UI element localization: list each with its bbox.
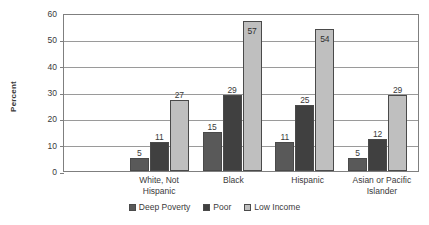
chart-legend: Deep PovertyPoorLow Income xyxy=(0,202,429,212)
bar-group: 152957 xyxy=(196,15,269,171)
bar-slot: 25 xyxy=(295,15,314,171)
legend-item[interactable]: Low Income xyxy=(244,202,300,212)
bar-value-label: 11 xyxy=(155,132,164,142)
bar-slot: 29 xyxy=(388,15,407,171)
bar-value-label: 27 xyxy=(175,90,184,100)
y-axis-tick xyxy=(60,146,64,147)
bar[interactable]: 11 xyxy=(275,142,294,171)
bar[interactable]: 15 xyxy=(203,132,222,172)
legend-label: Deep Poverty xyxy=(139,202,191,212)
y-axis-tick xyxy=(60,67,64,68)
y-axis-tick-label: 10 xyxy=(11,141,57,151)
bar-group: 51229 xyxy=(341,15,414,171)
y-axis-tick-label: 40 xyxy=(11,62,57,72)
bar-slot: 29 xyxy=(223,15,242,171)
bar-slot: 12 xyxy=(368,15,387,171)
bar-slot: 5 xyxy=(130,15,149,171)
bar[interactable]: 5 xyxy=(348,158,367,171)
bar-value-label: 12 xyxy=(373,129,382,139)
y-axis-tick xyxy=(60,120,64,121)
y-axis-tick-label: 0 xyxy=(11,167,57,177)
category-label-line: Hispanic xyxy=(122,186,196,197)
bar-slot: 5 xyxy=(348,15,367,171)
bar-value-label: 29 xyxy=(227,85,236,95)
bar-value-label: 25 xyxy=(300,95,309,105)
x-axis-category-label: Black xyxy=(196,175,270,196)
category-label-line: Asian or Pacific xyxy=(345,175,419,186)
y-axis-tick xyxy=(60,173,64,174)
legend-label: Poor xyxy=(213,202,231,212)
bar[interactable]: 54 xyxy=(315,29,334,171)
bar-value-label: 15 xyxy=(207,122,216,132)
bar-chart: Percent 5112715295711255451229 010203040… xyxy=(0,0,429,225)
bar[interactable]: 27 xyxy=(170,100,189,171)
bar-group: 112554 xyxy=(269,15,342,171)
y-axis-tick xyxy=(60,41,64,42)
bar-slot: 27 xyxy=(170,15,189,171)
bar-value-label: 5 xyxy=(137,148,142,158)
bar-slot: 54 xyxy=(315,15,334,171)
x-axis-category-label: White, NotHispanic xyxy=(122,175,196,196)
y-axis-tick-label: 30 xyxy=(11,88,57,98)
x-axis-category-label: Hispanic xyxy=(271,175,345,196)
category-label-line: Hispanic xyxy=(271,175,345,186)
legend-swatch-icon xyxy=(129,204,136,211)
bar-value-label: 54 xyxy=(320,34,329,44)
bar[interactable]: 25 xyxy=(295,105,314,171)
legend-swatch-icon xyxy=(244,204,251,211)
bar[interactable]: 29 xyxy=(388,95,407,171)
y-axis-tick-label: 60 xyxy=(11,9,57,19)
y-axis-tick-label: 20 xyxy=(11,114,57,124)
legend-item[interactable]: Poor xyxy=(203,202,231,212)
legend-swatch-icon xyxy=(203,204,210,211)
bar[interactable]: 11 xyxy=(150,142,169,171)
bar-slot: 57 xyxy=(243,15,262,171)
bar-group: 51127 xyxy=(123,15,196,171)
plot-area: 5112715295711255451229 xyxy=(63,14,419,172)
y-axis-tick xyxy=(60,94,64,95)
bar[interactable]: 5 xyxy=(130,158,149,171)
bar-value-label: 11 xyxy=(280,132,289,142)
y-axis-tick-label: 50 xyxy=(11,35,57,45)
bar[interactable]: 29 xyxy=(223,95,242,171)
x-axis-category-labels: White, NotHispanicBlackHispanicAsian or … xyxy=(122,175,419,196)
category-label-line: White, Not xyxy=(122,175,196,186)
bar-value-label: 29 xyxy=(393,85,402,95)
legend-item[interactable]: Deep Poverty xyxy=(129,202,191,212)
bar-slot: 11 xyxy=(275,15,294,171)
bar[interactable]: 12 xyxy=(368,139,387,171)
bar-value-label: 57 xyxy=(247,26,256,36)
bar-groups: 5112715295711255451229 xyxy=(123,15,414,171)
category-label-line: Black xyxy=(196,175,270,186)
bar-value-label: 5 xyxy=(355,148,360,158)
category-label-line: Islander xyxy=(345,186,419,197)
bar-slot: 15 xyxy=(203,15,222,171)
x-axis-category-label: Asian or PacificIslander xyxy=(345,175,419,196)
bar[interactable]: 57 xyxy=(243,21,262,171)
legend-label: Low Income xyxy=(254,202,300,212)
bar-slot: 11 xyxy=(150,15,169,171)
